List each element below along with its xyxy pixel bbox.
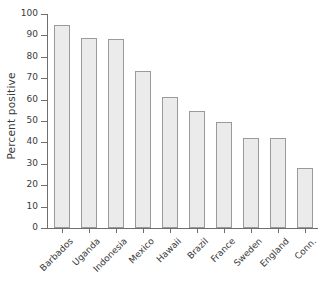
y-axis-tick	[41, 185, 47, 186]
bar	[270, 138, 286, 228]
y-axis-tick-label: 80	[0, 52, 38, 61]
y-axis-tick-label: 0	[0, 223, 38, 232]
y-axis-tick	[41, 57, 47, 58]
y-axis-tick-label: 50	[0, 116, 38, 125]
y-axis-tick	[41, 121, 47, 122]
y-axis-tick-label: 70	[0, 73, 38, 82]
y-axis-tick	[41, 78, 47, 79]
bar	[297, 168, 313, 228]
x-axis-tick	[278, 229, 279, 233]
bar	[54, 25, 70, 228]
bar	[243, 138, 259, 228]
y-axis-tick-label: 10	[0, 202, 38, 211]
x-axis-tick	[251, 229, 252, 233]
bar	[135, 71, 151, 228]
y-axis-tick	[41, 164, 47, 165]
x-axis-tick	[197, 229, 198, 233]
bar	[108, 39, 124, 228]
y-axis-tick-label: 20	[0, 180, 38, 189]
y-axis-tick	[41, 14, 47, 15]
x-axis-tick	[170, 229, 171, 233]
x-axis-tick	[62, 229, 63, 233]
bar	[162, 97, 178, 228]
y-axis-tick-label: 60	[0, 95, 38, 104]
y-axis-tick	[41, 100, 47, 101]
x-axis-tick	[143, 229, 144, 233]
y-axis-tick	[41, 207, 47, 208]
x-axis-tick	[305, 229, 306, 233]
y-axis-tick-label: 90	[0, 30, 38, 39]
y-axis-tick-label: 100	[0, 9, 38, 18]
x-axis-tick	[116, 229, 117, 233]
x-axis-tick	[89, 229, 90, 233]
bar	[216, 122, 232, 228]
y-axis-tick-label: 40	[0, 137, 38, 146]
y-axis-tick	[41, 228, 47, 229]
plot-area	[48, 14, 318, 228]
y-axis-tick	[41, 35, 47, 36]
bar-chart-figure: Percent positive 0102030405060708090100 …	[0, 0, 330, 284]
bar	[81, 38, 97, 228]
y-axis-tick	[41, 142, 47, 143]
bar	[189, 111, 205, 228]
y-axis-tick-label: 30	[0, 159, 38, 168]
x-axis-tick	[224, 229, 225, 233]
